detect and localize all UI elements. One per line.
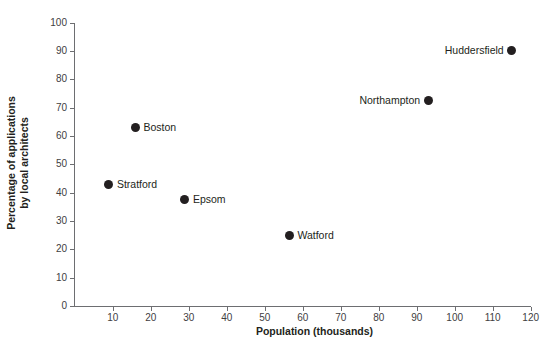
- data-point-label: Huddersfield: [445, 45, 504, 56]
- data-point-label: Boston: [144, 122, 177, 133]
- x-tick-mark: [303, 307, 304, 311]
- x-tick-label: 70: [326, 313, 356, 323]
- x-tick-label: 10: [98, 313, 128, 323]
- x-tick-label: 40: [212, 313, 242, 323]
- data-point-label: Watford: [297, 230, 333, 241]
- y-tick-label: 50: [43, 159, 67, 169]
- x-tick-mark: [227, 307, 228, 311]
- y-axis-title-line-2: by local architects: [18, 63, 31, 263]
- x-tick-label: 30: [174, 313, 204, 323]
- data-point-label: Stratford: [117, 179, 157, 190]
- x-tick-label: 50: [250, 313, 280, 323]
- data-point-label: Epsom: [193, 194, 226, 205]
- y-tick-label: 10: [43, 273, 67, 283]
- data-point[interactable]: [285, 231, 294, 240]
- x-tick-label: 120: [516, 313, 546, 323]
- x-tick-label: 90: [402, 313, 432, 323]
- y-axis-title-line-1: Percentage of applications: [5, 63, 18, 263]
- x-tick-mark: [113, 307, 114, 311]
- x-tick-mark: [151, 307, 152, 311]
- y-tick-label: 40: [43, 188, 67, 198]
- x-tick-mark: [417, 307, 418, 311]
- x-tick-label: 80: [364, 313, 394, 323]
- scatter-chart: 102030405060708090100110120 Population (…: [0, 0, 555, 359]
- data-point[interactable]: [104, 180, 113, 189]
- x-tick-mark: [341, 307, 342, 311]
- x-tick-label: 20: [136, 313, 166, 323]
- x-tick-mark: [189, 307, 190, 311]
- data-point[interactable]: [424, 96, 433, 105]
- x-tick-mark: [531, 307, 532, 311]
- x-axis-title: Population (thousands): [0, 325, 555, 337]
- x-tick-label: 60: [288, 313, 318, 323]
- x-tick-label: 110: [478, 313, 508, 323]
- x-tick-label: 100: [440, 313, 470, 323]
- y-tick-label: 60: [43, 131, 67, 141]
- x-tick-mark: [493, 307, 494, 311]
- y-tick-label: 30: [43, 216, 67, 226]
- y-tick-label: 20: [43, 244, 67, 254]
- data-point[interactable]: [131, 123, 140, 132]
- y-axis-title: Percentage of applications by local arch…: [5, 63, 31, 263]
- y-tick-label: 70: [43, 103, 67, 113]
- y-tick-label: 0: [43, 301, 67, 311]
- x-tick-mark: [265, 307, 266, 311]
- x-tick-mark: [455, 307, 456, 311]
- x-tick-mark: [379, 307, 380, 311]
- plot-area: [75, 23, 531, 307]
- y-tick-label: 80: [43, 74, 67, 84]
- y-tick-label: 100: [43, 18, 67, 28]
- data-point-label: Northampton: [359, 95, 420, 106]
- y-tick-label: 90: [43, 46, 67, 56]
